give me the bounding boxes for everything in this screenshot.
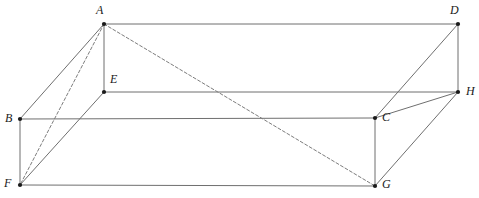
- vertex-label-h: H: [466, 85, 475, 97]
- vertex-label-b: B: [5, 112, 12, 124]
- vertex-dot-a: [102, 22, 106, 26]
- vertex-label-g: G: [382, 178, 391, 190]
- vertex-dot-f: [18, 183, 22, 187]
- vertex-label-a: A: [96, 4, 103, 16]
- vertex-dot-h: [456, 90, 460, 94]
- edge-GH: [375, 92, 458, 186]
- vertex-dot-g: [373, 184, 377, 188]
- edge-FG: [20, 185, 375, 186]
- vertex-label-c: C: [382, 111, 390, 123]
- prism-svg-canvas: [0, 0, 479, 198]
- edge-EF: [20, 92, 104, 185]
- edge-DC: [375, 24, 458, 118]
- edge-BC: [20, 118, 375, 119]
- vertex-label-d: D: [450, 4, 459, 16]
- vertex-dot-b: [18, 117, 22, 121]
- vertex-label-f: F: [4, 177, 11, 189]
- vertex-dot-d: [456, 22, 460, 26]
- vertex-dot-c: [373, 116, 377, 120]
- diagonal-AG: [104, 24, 375, 186]
- vertex-dot-e: [102, 90, 106, 94]
- dashed-diagonals-group: [20, 24, 375, 186]
- geometry-figure: ABCDEFGH: [0, 0, 479, 198]
- vertex-label-e: E: [110, 73, 117, 85]
